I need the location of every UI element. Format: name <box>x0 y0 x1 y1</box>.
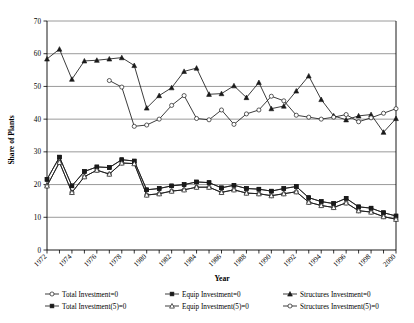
data-point-marker <box>58 155 62 159</box>
data-point-marker <box>381 111 385 115</box>
data-point-marker <box>157 93 162 98</box>
legend-item-0[interactable]: Total Investment=0 <box>45 291 118 299</box>
y-tick-label: 20 <box>34 181 42 189</box>
data-point-marker <box>294 113 298 117</box>
data-point-marker <box>282 187 286 191</box>
data-point-marker <box>107 166 111 170</box>
data-point-marker <box>257 108 261 112</box>
x-tick-label: 1986 <box>207 252 223 268</box>
data-point-marker <box>120 85 124 89</box>
x-tick-label: 1998 <box>357 252 373 268</box>
y-axis-tick-labels: 010203040506070 <box>34 18 42 255</box>
data-point-marker <box>232 122 236 126</box>
data-point-marker <box>82 170 86 174</box>
legend-label: Total Investment=0 <box>62 291 118 299</box>
y-axis-title: Share of Plants <box>7 115 16 164</box>
data-point-marker <box>170 103 174 107</box>
data-point-marker <box>319 117 323 121</box>
legend-label: Structures Investment=0 <box>300 291 371 299</box>
data-point-marker <box>269 94 273 98</box>
x-tick-label: 1976 <box>82 252 98 268</box>
y-axis-ticks <box>44 21 48 250</box>
data-point-marker <box>394 116 399 121</box>
data-point-marker <box>195 180 199 184</box>
data-point-marker <box>357 120 361 124</box>
data-point-marker <box>394 107 398 111</box>
x-tick-label: 1996 <box>332 252 348 268</box>
data-point-marker <box>282 99 286 103</box>
legend-item-3[interactable]: Total Investment(5)=0 <box>45 303 127 311</box>
legend-item-1[interactable]: Equip Investment=0 <box>165 291 241 299</box>
legend-label: Total Investment(5)=0 <box>62 303 127 311</box>
data-point-marker <box>306 73 311 78</box>
data-point-marker <box>369 116 373 120</box>
data-point-marker <box>288 304 292 308</box>
x-tick-label: 1978 <box>107 252 123 268</box>
data-point-marker <box>244 112 248 116</box>
x-tick-label: 1982 <box>157 252 173 268</box>
series-4 <box>45 47 399 135</box>
data-point-marker <box>132 124 136 128</box>
data-point-marker <box>307 115 311 119</box>
data-point-marker <box>344 113 348 117</box>
data-point-marker <box>170 292 174 296</box>
data-point-marker <box>132 63 137 68</box>
data-point-marker <box>45 177 49 181</box>
y-tick-label: 60 <box>34 50 42 58</box>
legend-item-5[interactable]: Structures Investment(5)=0 <box>283 303 379 311</box>
x-tick-label: 1984 <box>182 252 198 268</box>
data-point-marker <box>170 184 174 188</box>
chart-container: 1972197419761978198019821984198619881990… <box>0 0 414 323</box>
data-point-marker <box>70 184 74 188</box>
legend-item-2[interactable]: Structures Investment=0 <box>283 291 371 299</box>
x-tick-label: 1990 <box>257 252 273 268</box>
data-point-marker <box>57 47 62 52</box>
data-point-marker <box>207 118 211 122</box>
x-tick-label: 1988 <box>232 252 248 268</box>
data-point-marker <box>294 185 298 189</box>
y-tick-label: 40 <box>34 116 42 124</box>
data-point-marker <box>219 108 223 112</box>
line-chart: 1972197419761978198019821984198619881990… <box>0 0 414 323</box>
y-tick-label: 70 <box>34 18 42 26</box>
y-tick-label: 0 <box>37 247 41 255</box>
data-point-marker <box>194 66 199 71</box>
x-tick-label: 2000 <box>382 252 398 268</box>
data-point-marker <box>107 78 111 82</box>
data-point-marker <box>157 187 161 191</box>
legend-label: Equip Investment=0 <box>182 291 241 299</box>
series-3 <box>45 160 399 222</box>
x-tick-label: 1980 <box>132 252 148 268</box>
x-tick-label: 1994 <box>307 252 323 268</box>
x-axis-tick-labels: 1972197419761978198019821984198619881990… <box>33 252 398 268</box>
x-tick-label: 1974 <box>58 252 74 268</box>
series-layer <box>45 47 399 222</box>
data-point-marker <box>182 183 186 187</box>
data-point-marker <box>256 80 261 85</box>
x-axis-ticks <box>47 250 396 254</box>
y-tick-label: 50 <box>34 83 42 91</box>
data-point-marker <box>195 116 199 120</box>
legend-item-4[interactable]: Equip Investment(5)=0 <box>165 303 249 311</box>
x-axis-title: Year <box>214 274 230 283</box>
chart-legend: Total Investment=0Equip Investment=0Stru… <box>45 291 379 311</box>
plot-frame <box>47 21 396 250</box>
data-point-marker <box>50 304 54 308</box>
data-point-marker <box>319 97 324 102</box>
data-point-marker <box>157 117 161 121</box>
data-point-marker <box>232 83 237 88</box>
data-point-marker <box>50 292 54 296</box>
data-point-marker <box>182 94 186 98</box>
y-tick-label: 30 <box>34 148 42 156</box>
series-2 <box>45 155 398 218</box>
legend-label: Structures Investment(5)=0 <box>300 303 379 311</box>
y-tick-label: 10 <box>34 214 42 222</box>
data-point-marker <box>332 115 336 119</box>
data-point-marker <box>145 123 149 127</box>
legend-label: Equip Investment(5)=0 <box>182 303 249 311</box>
x-tick-label: 1972 <box>33 252 49 268</box>
x-tick-label: 1992 <box>282 252 298 268</box>
